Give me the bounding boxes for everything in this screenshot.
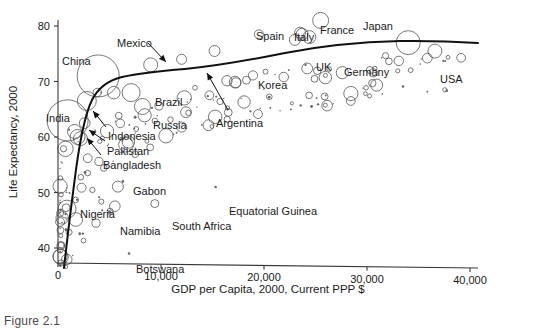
data-point xyxy=(428,44,442,58)
data-point xyxy=(64,213,66,215)
data-point xyxy=(59,200,60,201)
data-point xyxy=(95,157,103,165)
country-label: Nigeria xyxy=(80,208,115,220)
country-label: India xyxy=(46,112,70,124)
data-point xyxy=(59,234,63,238)
y-tick-label-4: 80 xyxy=(38,20,50,32)
data-point xyxy=(94,129,96,131)
data-point xyxy=(213,99,215,101)
data-point xyxy=(134,98,150,114)
data-point xyxy=(78,232,81,235)
data-point xyxy=(311,75,318,82)
data-point xyxy=(205,91,214,100)
data-point xyxy=(145,123,147,125)
data-point xyxy=(115,112,122,119)
data-point xyxy=(316,97,318,99)
data-point xyxy=(408,68,413,73)
data-point xyxy=(381,93,383,95)
data-point xyxy=(396,31,420,55)
data-point xyxy=(116,119,125,128)
data-point xyxy=(207,95,209,97)
data-point xyxy=(65,190,66,191)
data-point xyxy=(78,174,84,180)
data-point xyxy=(381,57,383,59)
country-label: Spain xyxy=(256,30,284,42)
data-point xyxy=(101,92,103,94)
country-label: Gabon xyxy=(133,185,166,197)
data-point xyxy=(196,106,197,107)
data-point xyxy=(290,108,292,110)
data-point xyxy=(420,58,421,59)
country-label: Equatorial Guinea xyxy=(229,205,317,217)
data-point xyxy=(260,107,262,109)
data-point xyxy=(193,85,198,90)
data-point xyxy=(299,104,301,106)
data-point xyxy=(317,103,319,105)
data-point xyxy=(56,218,65,227)
data-point xyxy=(238,96,250,108)
data-point xyxy=(215,96,217,98)
data-point xyxy=(444,60,446,62)
data-point xyxy=(420,63,422,65)
x-tick-label-0: 0 xyxy=(55,269,61,281)
data-point xyxy=(83,154,92,163)
data-point xyxy=(279,110,280,111)
y-tick-label-0: 40 xyxy=(38,242,50,254)
country-label: Japan xyxy=(363,20,393,32)
data-point xyxy=(99,199,104,204)
figure-caption: Figure 2.1 xyxy=(4,314,60,328)
country-label: UK xyxy=(316,61,331,73)
data-point xyxy=(323,103,327,107)
data-point xyxy=(422,53,432,63)
data-point xyxy=(396,69,400,73)
annotation-arrowhead xyxy=(93,111,100,118)
country-label: Mexico xyxy=(117,37,152,49)
data-point xyxy=(210,125,214,129)
data-point xyxy=(59,228,61,230)
data-point xyxy=(62,204,70,212)
data-point xyxy=(90,187,95,192)
data-point xyxy=(426,91,428,93)
data-point xyxy=(323,73,327,77)
data-point xyxy=(151,200,159,208)
data-point xyxy=(445,89,448,92)
data-point xyxy=(82,232,84,234)
country-label: Botswana xyxy=(136,263,184,275)
data-point xyxy=(269,107,271,109)
data-point xyxy=(203,120,214,131)
data-point xyxy=(290,102,293,105)
data-point xyxy=(325,95,327,97)
annotation-arrowhead xyxy=(207,73,213,81)
data-point xyxy=(60,212,61,213)
data-point xyxy=(186,110,191,115)
data-point xyxy=(371,79,383,91)
x-axis-line xyxy=(58,263,478,268)
data-point xyxy=(332,103,333,104)
data-point xyxy=(134,116,137,119)
data-point xyxy=(66,219,67,220)
data-point xyxy=(112,181,123,192)
data-point xyxy=(53,179,67,193)
annotation-arrowhead xyxy=(89,130,97,137)
annotation-arrowhead xyxy=(87,138,94,145)
data-point xyxy=(84,171,87,174)
data-point xyxy=(288,69,290,71)
country-label: Namibia xyxy=(120,225,160,237)
data-point xyxy=(442,60,444,62)
y-tick-label-1: 50 xyxy=(38,187,50,199)
data-point xyxy=(249,110,251,112)
data-point xyxy=(77,183,86,192)
data-point xyxy=(386,58,393,65)
data-point xyxy=(222,76,232,86)
data-point xyxy=(118,88,119,89)
x-axis-title: GDP per Capita, 2000, Current PPP $ xyxy=(171,283,365,295)
data-point xyxy=(69,192,71,194)
data-point xyxy=(61,162,63,164)
country-label: France xyxy=(320,24,354,36)
data-point xyxy=(98,139,102,143)
data-point xyxy=(128,124,130,126)
country-label: Germany xyxy=(344,66,389,78)
data-point xyxy=(201,124,203,126)
country-label: USA xyxy=(440,73,463,85)
